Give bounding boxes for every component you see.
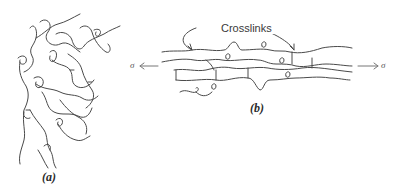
stress-label-right: σ [381,60,385,70]
panel-b-chains [140,28,378,96]
crosslinks-callout-label: Crosslinks [219,22,274,34]
panel-a-network [18,14,120,168]
crosslinked-polymer-figure: Crosslinks σ σ (a) (b) [0,0,396,190]
panel-a-label: (a) [42,170,56,185]
polymer-chains-drawing [0,0,396,190]
stress-label-left: σ [130,60,134,70]
panel-b-label: (b) [250,101,264,116]
